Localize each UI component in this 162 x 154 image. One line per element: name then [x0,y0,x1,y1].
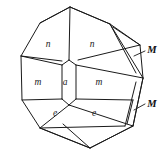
crystal-drawing [0,0,162,154]
face-label-n-left: n [46,40,51,50]
index-label-M-lower: M [147,99,156,110]
face-label-m-right: m [96,78,103,88]
index-label-M-upper: M [147,45,156,56]
face-label-e-right: e [92,109,96,119]
face-label-m-left: m [35,78,42,88]
crystal-figure: nnmamee MM [0,0,162,154]
face-label-n-right: n [90,40,95,50]
face-label-a-center: a [63,78,68,88]
face-label-e-left: e [53,109,57,119]
